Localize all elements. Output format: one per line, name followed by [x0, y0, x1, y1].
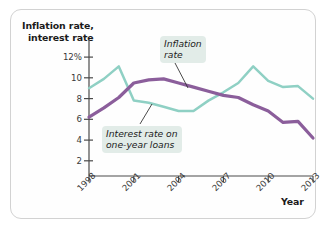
y-tick-label-6: 6 — [52, 114, 82, 124]
figure-container: Inflation rate, interest rate Year — [0, 0, 329, 231]
annotation-inflation-line1: Inflation — [164, 38, 202, 49]
annotation-interest-rate: Interest rate on one-year loans — [102, 126, 182, 153]
y-tick-label-12: 12% — [52, 52, 82, 62]
y-tick-label-4: 4 — [52, 135, 82, 145]
annotation-leader-lines — [140, 63, 188, 124]
x-axis-ticks — [89, 176, 313, 182]
y-tick-label-10: 10 — [52, 73, 82, 83]
annotation-interest-line1: Interest rate on — [106, 128, 178, 139]
y-tick-label-8: 8 — [52, 94, 82, 104]
annotation-inflation-line2: rate — [164, 49, 202, 60]
annotation-inflation-rate: Inflation rate — [160, 36, 206, 63]
annotation-interest-line2: one-year loans — [106, 139, 178, 150]
chart-plot-area — [0, 0, 329, 231]
y-tick-label-2: 2 — [52, 156, 82, 166]
